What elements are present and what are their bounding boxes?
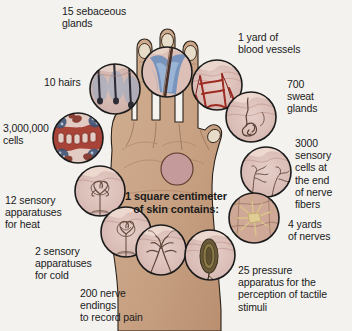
- label-heat-apparatuses: 12 sensory apparatuses for heat: [5, 194, 62, 231]
- label-blood-vessels: 1 yard of blood vessels: [238, 31, 300, 55]
- label-sweat-glands: 700 sweat glands: [287, 78, 317, 115]
- label-sebaceous-glands: 15 sebaceous glands: [62, 5, 126, 29]
- label-hairs: 10 hairs: [44, 76, 81, 88]
- label-nerves: 4 yards of nerves: [288, 218, 330, 242]
- skin-anatomy-infographic: 15 sebaceous glands 1 yard of blood vess…: [0, 0, 352, 331]
- label-nerve-endings: 200 nerve endings to record pain: [80, 287, 143, 324]
- center-note: 1 square centimeter of skin contains:: [106, 190, 246, 216]
- label-sensory-cells: 3000 sensory cells at the end of nerve f…: [295, 137, 332, 210]
- label-cold-apparatuses: 2 sensory apparatuses for cold: [35, 245, 92, 282]
- label-pressure-apparatus: 25 pressure apparatus for the perception…: [238, 264, 327, 313]
- label-cells: 3,000,000 cells: [3, 122, 49, 146]
- one-square-centimeter-patch: [161, 153, 193, 185]
